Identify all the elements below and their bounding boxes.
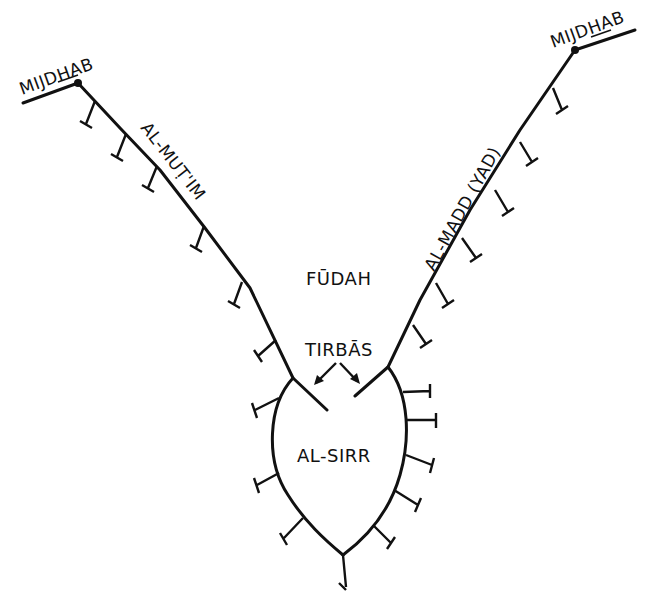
al-sirr-loop xyxy=(252,367,436,590)
left-arm-al-mutim xyxy=(23,79,327,410)
left-arm-ticks xyxy=(80,101,276,362)
label-fudah: FŪDAH xyxy=(306,268,371,289)
label-al-sirr: AL-SIRR xyxy=(297,445,371,466)
loop-left-curve xyxy=(272,378,343,555)
diagram-canvas: MIJDHAB MIJDHAB AL-MUṬ'IM AL-MADD (YAD) … xyxy=(0,0,655,607)
right-arm-ticks xyxy=(413,88,568,348)
label-al-madd: AL-MADD (YAD) xyxy=(420,143,505,274)
left-arm-line xyxy=(78,83,327,410)
tirbas-arrows xyxy=(314,363,360,385)
loop-ticks xyxy=(252,384,436,590)
label-tirbas: TIRBĀS xyxy=(304,339,373,360)
label-al-mutim: AL-MUṬ'IM xyxy=(137,118,210,204)
right-arm-al-madd xyxy=(355,30,635,396)
